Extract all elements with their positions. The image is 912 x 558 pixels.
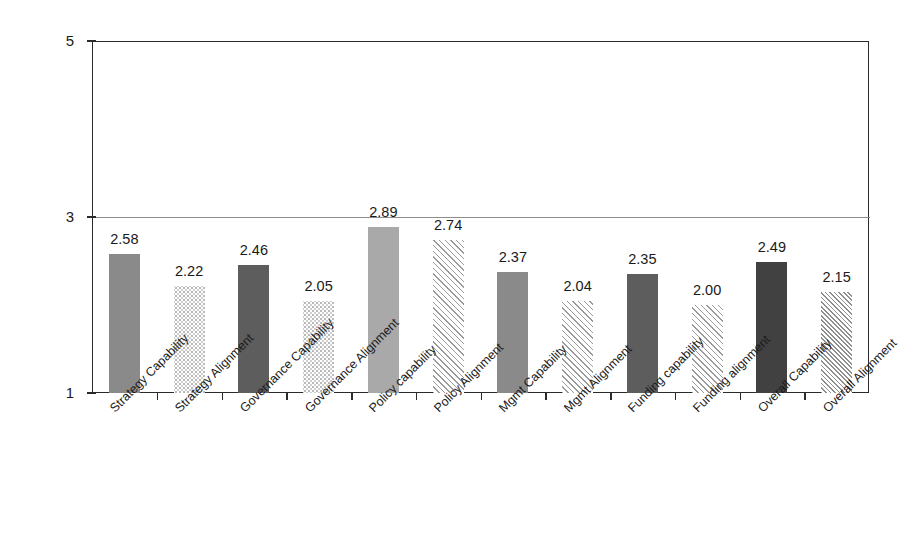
bar-value-label: 2.00 [677, 283, 737, 298]
x-tick-mark-7 [545, 393, 547, 400]
x-tick-mark-6 [481, 393, 483, 400]
bar-value-label: 2.22 [159, 264, 219, 279]
bar [109, 254, 140, 393]
y-tick-mark-3 [87, 216, 96, 218]
bar [238, 265, 269, 393]
x-tick-mark-10 [740, 393, 742, 400]
x-tick-mark-9 [675, 393, 677, 400]
bar [756, 262, 787, 393]
bar-value-label: 2.49 [742, 240, 802, 255]
bar-value-label: 2.74 [418, 218, 478, 233]
x-tick-mark-4 [351, 393, 353, 400]
x-tick-mark-3 [286, 393, 288, 400]
x-tick-mark-5 [416, 393, 418, 400]
bar [627, 274, 658, 393]
bar-value-label: 2.58 [94, 232, 154, 247]
bar-value-label: 2.04 [548, 279, 608, 294]
x-tick-mark-11 [804, 393, 806, 400]
bar [497, 272, 528, 393]
gridline-3 [92, 217, 870, 218]
bar [368, 227, 399, 393]
x-tick-mark-8 [610, 393, 612, 400]
bar-value-label: 2.46 [224, 243, 284, 258]
bar-value-label: 2.37 [483, 250, 543, 265]
y-tick-mark-5 [87, 40, 96, 42]
y-tick-label-3: 3 [48, 209, 74, 224]
y-tick-label-1: 1 [48, 385, 74, 400]
bar-chart: 135 2.582.222.462.052.892.742.372.042.35… [0, 0, 912, 558]
bar-value-label: 2.05 [289, 279, 349, 294]
y-tick-label-5: 5 [48, 33, 74, 48]
bar-value-label: 2.35 [612, 252, 672, 267]
bar-value-label: 2.89 [353, 205, 413, 220]
y-tick-mark-1 [87, 392, 96, 394]
x-tick-mark-2 [222, 393, 224, 400]
bar-value-label: 2.15 [807, 270, 867, 285]
bar [433, 240, 464, 393]
x-tick-mark-1 [157, 393, 159, 400]
